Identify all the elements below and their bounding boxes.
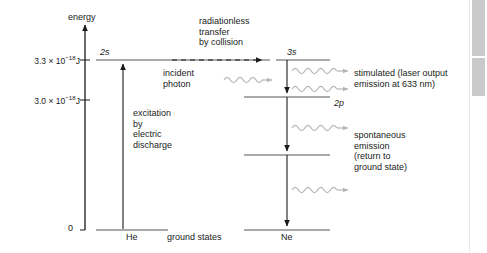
axis-tick-unit-3-0: J xyxy=(76,96,80,106)
axis-tick-exponent-3-0: −18 xyxy=(65,94,76,101)
axis-tick-value-3-3: 3.3 × 10 xyxy=(34,56,65,66)
level-label-ne-3s: 3s xyxy=(287,47,297,58)
axis-tick-value-3-0: 3.0 × 10 xyxy=(34,96,65,106)
annotation-excitation: excitation by electric discharge xyxy=(133,108,172,150)
wave-path-spontaneous-1 xyxy=(292,125,337,130)
spontaneous-emission-waves xyxy=(292,125,348,192)
wave-path-stimulated-1 xyxy=(292,68,337,73)
wave-path-spontaneous-2 xyxy=(292,187,337,192)
axis-tick-unit-3-3: J xyxy=(76,56,80,66)
incident-photon-wave xyxy=(224,77,272,82)
energy-axis-label: energy xyxy=(68,12,96,23)
energy-level-diagram: energy 3.3 × 10−18J 3.0 × 10−18J 0 2s 3s… xyxy=(0,0,470,253)
wave-path-stimulated-2 xyxy=(292,86,337,91)
scrollbar-thumb-secondary[interactable] xyxy=(472,58,485,96)
figure-page: energy 3.3 × 10−18J 3.0 × 10−18J 0 2s 3s… xyxy=(0,0,487,253)
annotation-spontaneous-emission: spontaneous emission (return to ground s… xyxy=(354,130,407,172)
axis-tick-label-3-0: 3.0 × 10−18J xyxy=(8,94,80,106)
annotation-radiationless-transfer: radiationless transfer by collision xyxy=(199,16,250,48)
stimulated-emission-waves xyxy=(292,68,348,91)
neon-column xyxy=(244,60,330,230)
energy-axis xyxy=(80,25,90,230)
ground-states-label: ground states xyxy=(167,232,222,243)
annotation-stimulated-emission: stimulated (laser output emission at 633… xyxy=(354,68,448,89)
wave-path-incident xyxy=(224,77,262,82)
scrollbar[interactable] xyxy=(469,0,487,253)
column-label-ne: Ne xyxy=(281,232,293,243)
axis-tick-label-3-3: 3.3 × 10−18J xyxy=(8,54,80,66)
annotation-incident-photon: incident photon xyxy=(163,68,194,89)
column-label-he: He xyxy=(126,232,138,243)
axis-tick-exponent-3-3: −18 xyxy=(65,54,76,61)
level-label-ne-2p: 2p xyxy=(334,98,344,109)
level-label-he-2s: 2s xyxy=(100,47,110,58)
axis-zero-label: 0 xyxy=(68,223,73,234)
scrollbar-thumb[interactable] xyxy=(472,0,485,56)
